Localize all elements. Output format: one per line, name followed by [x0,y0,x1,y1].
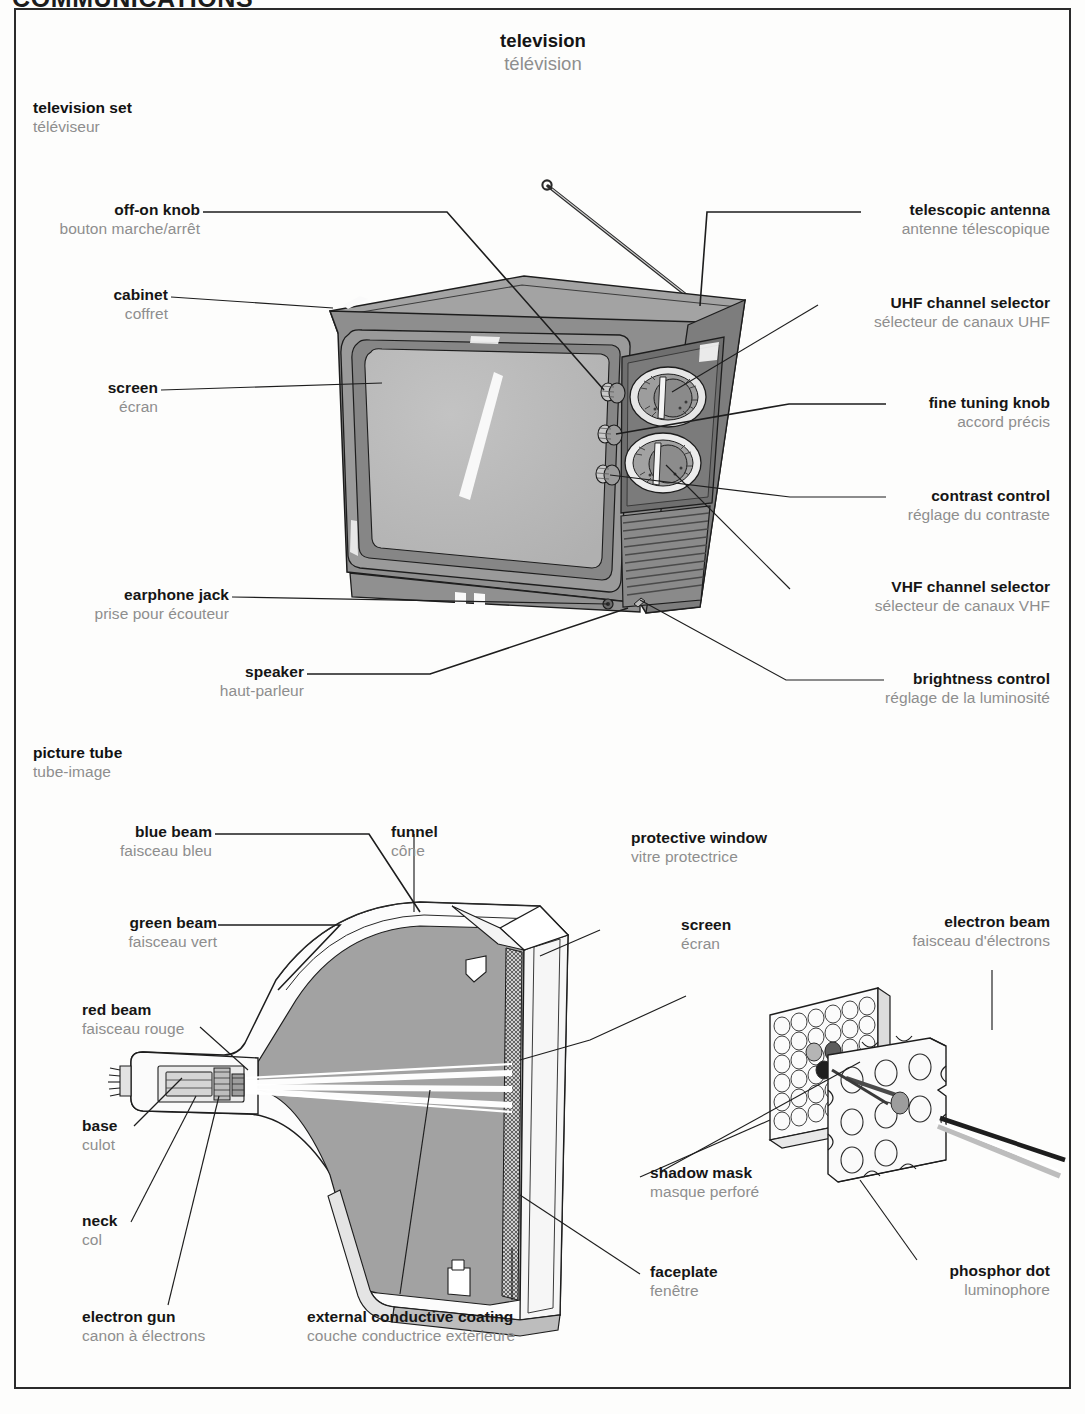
label-screen-tv-en: screen [4,379,158,398]
label-cabinet: cabinet coffret [4,286,168,324]
label-electron-gun-fr: canon à électrons [82,1327,205,1346]
label-vhf-channel-selector-en: VHF channel selector [760,578,1050,597]
label-screen-tube-fr: écran [681,935,731,954]
label-contrast-control-en: contrast control [760,487,1050,506]
label-electron-beam-en: electron beam [790,913,1050,932]
label-shadow-mask-en: shadow mask [650,1164,759,1183]
label-earphone-jack: earphone jack prise pour écouteur [4,586,229,624]
label-green-beam: green beam faisceau vert [4,914,217,952]
label-external-conductive-coating-en: external conductive coating [307,1308,515,1327]
label-speaker-en: speaker [4,663,304,682]
label-external-conductive-coating: external conductive coating couche condu… [307,1308,515,1346]
label-earphone-jack-fr: prise pour écouteur [4,605,229,624]
label-brightness-control-fr: réglage de la luminosité [745,689,1050,708]
label-funnel-fr: cône [391,842,438,861]
label-screen-tv: screen écran [4,379,158,417]
label-off-on-knob: off-on knob bouton marche/arrêt [4,201,200,239]
label-telescopic-antenna-en: telescopic antenna [790,201,1050,220]
label-faceplate-en: faceplate [650,1263,718,1282]
label-vhf-channel-selector-fr: sélecteur de canaux VHF [760,597,1050,616]
label-red-beam: red beam faisceau rouge [82,1001,184,1039]
label-protective-window-fr: vitre protectrice [631,848,767,867]
label-protective-window-en: protective window [631,829,767,848]
page-title-fr: télévision [443,53,643,76]
label-fine-tuning-knob: fine tuning knob accord précis [790,394,1050,432]
label-brightness-control-en: brightness control [745,670,1050,689]
label-green-beam-en: green beam [4,914,217,933]
label-off-on-knob-en: off-on knob [4,201,200,220]
label-phosphor-dot-fr: luminophore [790,1281,1050,1300]
dictionary-page: COMMUNICATIONS [0,0,1085,1414]
section-title-television-set-fr: téléviseur [33,118,132,137]
label-electron-gun-en: electron gun [82,1308,205,1327]
label-base-fr: culot [82,1136,118,1155]
label-base-en: base [82,1117,118,1136]
label-screen-tv-fr: écran [4,398,158,417]
label-phosphor-dot-en: phosphor dot [790,1262,1050,1281]
label-funnel: funnel cône [391,823,438,861]
label-base: base culot [82,1117,118,1155]
label-earphone-jack-en: earphone jack [4,586,229,605]
label-uhf-channel-selector: UHF channel selector sélecteur de canaux… [760,294,1050,332]
label-neck-fr: col [82,1231,118,1250]
label-blue-beam-en: blue beam [4,823,212,842]
label-neck-en: neck [82,1212,118,1231]
label-funnel-en: funnel [391,823,438,842]
label-red-beam-fr: faisceau rouge [82,1020,184,1039]
label-uhf-channel-selector-fr: sélecteur de canaux UHF [760,313,1050,332]
label-phosphor-dot: phosphor dot luminophore [790,1262,1050,1300]
label-blue-beam-fr: faisceau bleu [4,842,212,861]
page-title: television télévision [443,30,643,75]
label-electron-gun: electron gun canon à électrons [82,1308,205,1346]
section-title-picture-tube-en: picture tube [33,744,122,763]
section-title-picture-tube-fr: tube-image [33,763,122,782]
label-green-beam-fr: faisceau vert [4,933,217,952]
section-title-television-set: television set téléviseur [33,99,132,137]
label-uhf-channel-selector-en: UHF channel selector [760,294,1050,313]
label-contrast-control-fr: réglage du contraste [760,506,1050,525]
label-red-beam-en: red beam [82,1001,184,1020]
label-speaker-fr: haut-parleur [4,682,304,701]
label-screen-tube: screen écran [681,916,731,954]
label-fine-tuning-knob-en: fine tuning knob [790,394,1050,413]
label-faceplate: faceplate fenêtre [650,1263,718,1301]
label-external-conductive-coating-fr: couche conductrice extérieure [307,1327,515,1346]
label-electron-beam: electron beam faisceau d'électrons [790,913,1050,951]
label-shadow-mask-fr: masque perforé [650,1183,759,1202]
section-title-picture-tube: picture tube tube-image [33,744,122,782]
label-off-on-knob-fr: bouton marche/arrêt [4,220,200,239]
label-electron-beam-fr: faisceau d'électrons [790,932,1050,951]
label-brightness-control: brightness control réglage de la luminos… [745,670,1050,708]
label-contrast-control: contrast control réglage du contraste [760,487,1050,525]
label-faceplate-fr: fenêtre [650,1282,718,1301]
label-screen-tube-en: screen [681,916,731,935]
label-blue-beam: blue beam faisceau bleu [4,823,212,861]
label-shadow-mask: shadow mask masque perforé [650,1164,759,1202]
label-speaker: speaker haut-parleur [4,663,304,701]
label-fine-tuning-knob-fr: accord précis [790,413,1050,432]
label-cabinet-en: cabinet [4,286,168,305]
page-title-en: television [443,30,643,53]
label-cabinet-fr: coffret [4,305,168,324]
label-neck: neck col [82,1212,118,1250]
label-telescopic-antenna-fr: antenne télescopique [790,220,1050,239]
label-telescopic-antenna: telescopic antenna antenne télescopique [790,201,1050,239]
label-protective-window: protective window vitre protectrice [631,829,767,867]
section-title-television-set-en: television set [33,99,132,118]
label-vhf-channel-selector: VHF channel selector sélecteur de canaux… [760,578,1050,616]
